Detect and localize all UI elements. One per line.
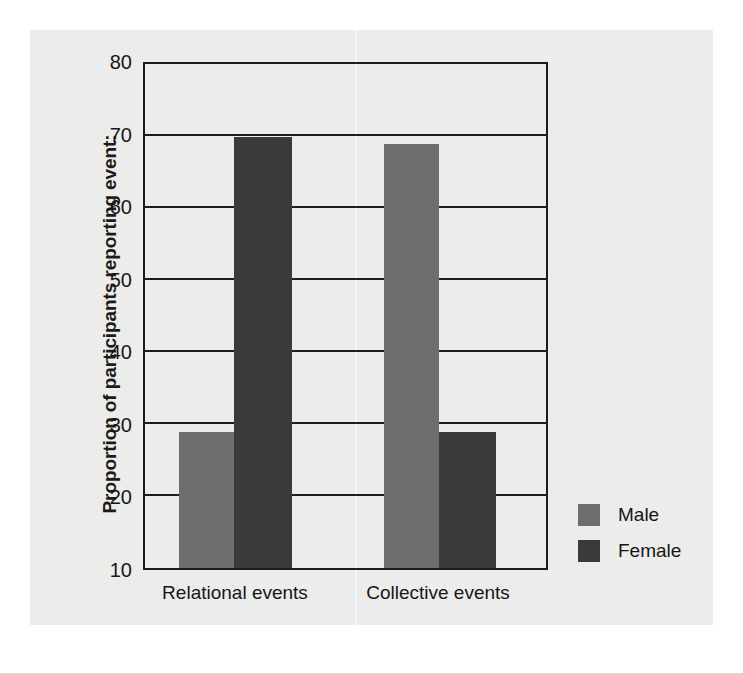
y-tick-label-30: 30 bbox=[72, 413, 132, 436]
legend-label-male: Male bbox=[618, 504, 659, 526]
plot-area-frame bbox=[143, 62, 548, 570]
bar-male-collective-events bbox=[384, 144, 439, 568]
y-tick-label-10: 10 bbox=[72, 559, 132, 582]
y-tick-label-40: 40 bbox=[72, 341, 132, 364]
y-tick-label-70: 70 bbox=[72, 123, 132, 146]
legend-swatch-female-icon bbox=[578, 540, 600, 562]
legend-label-female: Female bbox=[618, 540, 681, 562]
x-axis-label-relational-events: Relational events bbox=[162, 582, 308, 604]
bar-female-collective-events bbox=[439, 432, 496, 569]
legend-swatch-male-icon bbox=[578, 504, 600, 526]
bar-female-relational-events bbox=[234, 137, 292, 568]
y-tick-label-50: 50 bbox=[72, 268, 132, 291]
plot-area bbox=[145, 64, 546, 568]
gridline-60 bbox=[145, 206, 546, 208]
x-axis-label-collective-events: Collective events bbox=[366, 582, 510, 604]
gridline-70 bbox=[145, 134, 546, 136]
legend-item-female: Female bbox=[578, 533, 681, 569]
legend-item-male: Male bbox=[578, 497, 681, 533]
gridline-30 bbox=[145, 422, 546, 424]
y-tick-label-60: 60 bbox=[72, 196, 132, 219]
gridline-40 bbox=[145, 350, 546, 352]
bar-chart-figure: Proportion of participants reporting eve… bbox=[0, 0, 743, 673]
y-tick-label-80: 80 bbox=[72, 51, 132, 74]
y-tick-label-20: 20 bbox=[72, 486, 132, 509]
chart-legend: Male Female bbox=[578, 497, 681, 569]
bar-male-relational-events bbox=[179, 432, 234, 569]
gridline-50 bbox=[145, 278, 546, 280]
